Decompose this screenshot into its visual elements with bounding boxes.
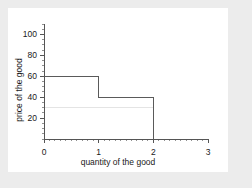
x-tick-label: 3 [206,147,211,157]
x-tick-label: 1 [96,147,101,157]
step-chart: 20406080100 0123 price of the good quant… [8,8,228,172]
y-axis-title: price of the good [14,58,24,122]
y-tick-label: 40 [28,92,38,102]
y-tick-label: 60 [28,71,38,81]
y-axis-major-ticks [40,34,44,118]
x-axis-tick-labels: 0123 [42,147,211,157]
y-tick-label: 20 [28,113,38,123]
axis-lines [44,24,208,139]
x-tick-label: 2 [151,147,156,157]
y-tick-label: 80 [28,50,38,60]
chart-card: 20406080100 0123 price of the good quant… [8,8,228,172]
x-axis-title: quantity of the good [81,157,156,167]
y-tick-label: 100 [23,29,37,39]
x-tick-label: 0 [42,147,47,157]
y-axis-tick-labels: 20406080100 [23,29,37,123]
